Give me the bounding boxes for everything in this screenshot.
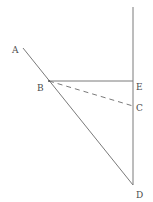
label-e: E xyxy=(136,83,143,92)
point-b xyxy=(48,80,50,82)
segment-a-d xyxy=(23,48,133,185)
segment-b-c-dashed xyxy=(49,81,133,106)
label-a: A xyxy=(12,46,19,55)
label-d: D xyxy=(136,191,143,200)
label-c: C xyxy=(136,104,143,113)
label-b: B xyxy=(37,84,44,93)
geometry-diagram xyxy=(0,0,153,202)
